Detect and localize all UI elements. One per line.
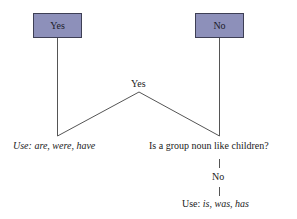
no-box: No <box>195 13 244 38</box>
no-box-label: No <box>213 20 225 31</box>
right-result: Use: is, was, has <box>182 199 249 209</box>
right-result-words: is, was, has <box>203 198 249 209</box>
left-result: Use: are, were, have <box>13 141 95 151</box>
right-branch-no-label: No <box>212 172 224 182</box>
right-result-prefix: Use: <box>182 198 203 209</box>
junction-yes-label: Yes <box>131 79 146 89</box>
left-result-words: are, were, have <box>34 140 95 151</box>
yes-box-label: Yes <box>50 20 65 31</box>
yes-box: Yes <box>33 13 82 38</box>
left-result-prefix: Use: <box>13 140 34 151</box>
right-question: Is a group noun like children? <box>149 141 269 151</box>
